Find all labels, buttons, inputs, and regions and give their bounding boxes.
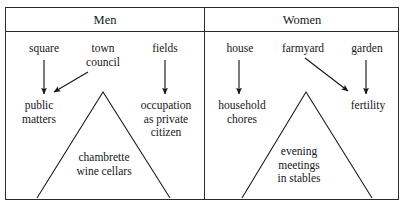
diagram-canvas: · Men Women square town council fields p…: [0, 0, 405, 208]
node-household-chores: household chores: [206, 99, 278, 126]
node-garden: garden: [338, 42, 396, 56]
tent-label-women-line1: evening: [256, 145, 342, 159]
tent-label-men-line1: chambrette: [54, 151, 154, 165]
node-household-chores-line2: chores: [206, 113, 278, 127]
node-occupation-line3: citizen: [132, 126, 200, 140]
node-public-matters-line1: public: [8, 99, 70, 113]
tent-label-women-line3: in stables: [256, 172, 342, 186]
node-occupation: occupation as private citizen: [132, 99, 200, 140]
tent-label-women: evening meetings in stables: [256, 145, 342, 186]
column-divider-rule: [204, 7, 205, 200]
tent-label-women-line2: meetings: [256, 159, 342, 173]
node-public-matters-line2: matters: [8, 113, 70, 127]
tent-label-men-line2: wine cellars: [54, 165, 154, 179]
node-occupation-line2: as private: [132, 113, 200, 127]
node-town-council: town council: [72, 42, 134, 69]
node-public-matters: public matters: [8, 99, 70, 126]
tent-label-men: chambrette wine cellars: [54, 151, 154, 178]
node-square: square: [14, 42, 74, 56]
column-header-women: Women: [206, 10, 398, 30]
node-town-council-line2: council: [72, 56, 134, 70]
node-household-chores-line1: household: [206, 99, 278, 113]
node-farmyard: farmyard: [270, 42, 336, 56]
column-header-men: Men: [6, 10, 204, 30]
scan-artifact-sliver: ·: [0, 0, 405, 5]
header-separator-rule: [5, 31, 399, 32]
node-fields: fields: [137, 42, 193, 56]
node-fertility: fertility: [340, 99, 396, 113]
node-town-council-line1: town: [72, 42, 134, 56]
node-occupation-line1: occupation: [132, 99, 200, 113]
node-house: house: [212, 42, 268, 56]
